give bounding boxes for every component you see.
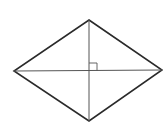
rhombus-figure [0,0,163,123]
diagram-canvas [0,0,163,123]
horizontal-diagonal [14,70,162,71]
right-angle-marker-icon [89,63,97,71]
